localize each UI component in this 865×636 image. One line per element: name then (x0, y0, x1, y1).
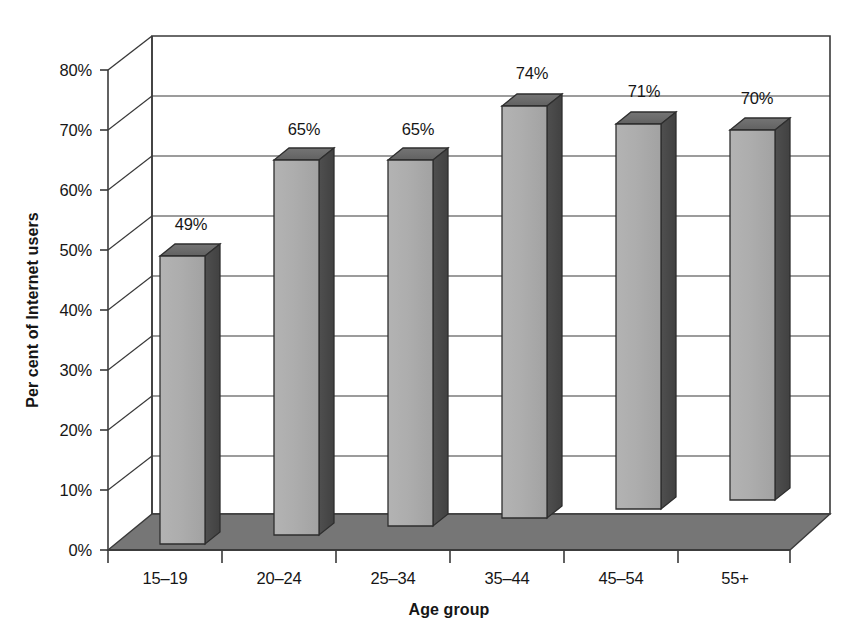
y-tick-label-10: 10% (30, 481, 92, 500)
x-tick-label-45-54: 45–54 (599, 569, 644, 588)
x-tick-label-55-plus: 55+ (721, 569, 748, 588)
bar-column-20-24 (274, 148, 334, 535)
bar-column-45-54 (616, 112, 676, 509)
y-tick-label-70: 70% (30, 121, 92, 140)
bar-value-label-25-34: 65% (402, 120, 434, 139)
x-tick-label-20-24: 20–24 (257, 569, 302, 588)
x-tick-label-35-44: 35–44 (485, 569, 530, 588)
bar-value-label-45-54: 71% (628, 82, 660, 101)
bar-column-55-plus (730, 118, 790, 500)
x-tick-label-25-34: 25–34 (371, 569, 416, 588)
bar-value-label-35-44: 74% (516, 64, 548, 83)
y-axis-title: Per cent of Internet users (24, 185, 42, 435)
bar-value-label-55-plus: 70% (741, 89, 773, 108)
bar-column-35-44 (502, 94, 562, 518)
bar-column-25-34 (388, 148, 448, 526)
bar-value-label-20-24: 65% (288, 120, 320, 139)
bar-column-15-19 (160, 244, 220, 544)
x-tick-label-15-19: 15–19 (143, 569, 188, 588)
chart-figure: 80% 70% 60% 50% 40% 30% 20% 10% 0% 15–19… (0, 0, 865, 636)
bar-value-label-15-19: 49% (175, 215, 207, 234)
chart-plot-area (0, 0, 865, 636)
y-axis-ticks (100, 70, 108, 550)
x-axis (108, 550, 790, 563)
y-tick-label-0: 0% (30, 541, 92, 560)
back-wall (152, 36, 830, 514)
y-tick-label-80: 80% (30, 61, 92, 80)
x-axis-title: Age group (409, 601, 490, 619)
